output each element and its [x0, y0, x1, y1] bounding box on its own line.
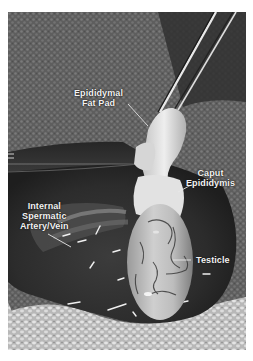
label-epididymal-fat-pad: Epididymal Fat Pad — [74, 88, 123, 108]
testicle-tissue — [127, 204, 193, 320]
label-caput-epididymis: Caput Epididymis — [186, 168, 235, 188]
label-testicle: Testicle — [196, 255, 230, 265]
anatomical-photo: Epididymal Fat Pad Caput Epididymis Inte… — [8, 12, 246, 350]
label-internal-spermatic-artery-vein: Internal Spermatic Artery/Vein — [20, 201, 69, 231]
